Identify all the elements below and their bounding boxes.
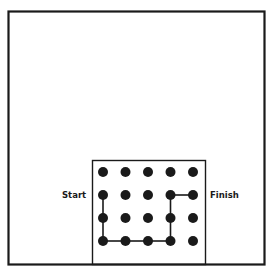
grid-dot [121,190,131,200]
grid-dot [188,167,198,177]
grid-dot [98,167,108,177]
grid-dot [143,167,153,177]
start-label: Start [62,190,86,200]
grid-dot [98,190,108,200]
grid-dot [188,213,198,223]
grid-dot [143,236,153,246]
grid-dot [188,236,198,246]
grid-dot [98,236,108,246]
finish-label: Finish [210,190,239,200]
grid-dot [166,213,176,223]
outer-frame [9,12,265,265]
grid-dot [166,190,176,200]
grid-dot [98,213,108,223]
grid-dot [121,213,131,223]
grid-dot [166,167,176,177]
grid-dot [121,167,131,177]
dot-grid [98,167,198,246]
grid-dot [143,190,153,200]
grid-dot [166,236,176,246]
grid-dot [143,213,153,223]
maze-diagram: Start Finish [0,0,273,269]
grid-dot [121,236,131,246]
grid-dot [188,190,198,200]
